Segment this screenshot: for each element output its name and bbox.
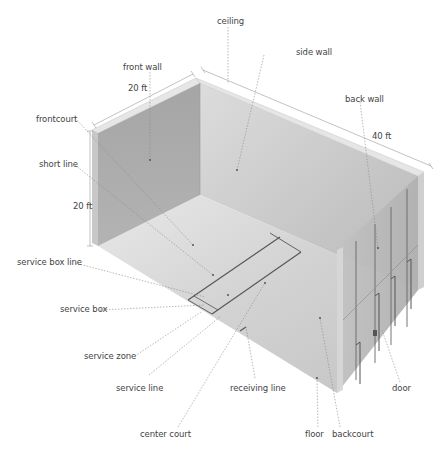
label-ceiling: ceiling <box>217 16 244 26</box>
label-front-wall: front wall <box>123 62 162 72</box>
label-door: door <box>392 383 411 393</box>
label-side-wall: side wall <box>296 47 332 57</box>
dimension-width: 20 ft <box>128 83 147 93</box>
label-service-box: service box <box>60 304 107 314</box>
dimension-height: 20 ft <box>73 201 92 211</box>
label-service-line: service line <box>116 383 163 393</box>
label-frontcourt: frontcourt <box>36 114 77 124</box>
door-handle <box>373 330 377 336</box>
racquetball-court-diagram: ceiling front wall 20 ft side wall back … <box>0 0 446 457</box>
label-receiving-line: receiving line <box>230 383 286 393</box>
label-center-court: center court <box>140 429 191 439</box>
label-short-line: short line <box>39 159 78 169</box>
label-back-wall: back wall <box>345 94 384 104</box>
label-service-box-line: service box line <box>17 257 82 267</box>
label-floor: floor <box>305 429 324 439</box>
label-backcourt: backcourt <box>332 429 373 439</box>
dimension-length: 40 ft <box>372 131 391 141</box>
label-service-zone: service zone <box>84 351 136 361</box>
court-illustration <box>0 0 446 457</box>
